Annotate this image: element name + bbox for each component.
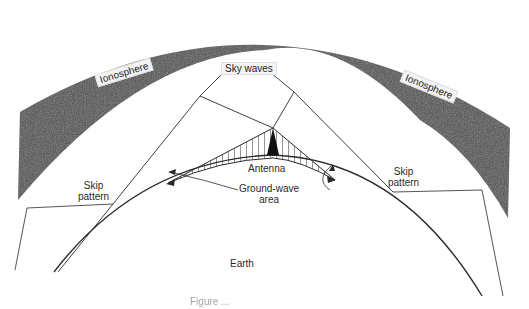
skip-right-line2: pattern (388, 177, 419, 188)
skip-left-line1: Skip (78, 180, 109, 191)
ground-wave-label-line2: area (239, 194, 299, 205)
skip-left-line2: pattern (78, 191, 109, 202)
figure-caption: Figure ... (190, 296, 229, 307)
skip-right-line1: Skip (388, 166, 419, 177)
diagram-canvas (0, 0, 529, 309)
sky-waves-label: Sky waves (221, 62, 277, 75)
skip-pattern-label-right: Skip pattern (388, 166, 419, 188)
ground-wave-label-line1: Ground-wave (239, 183, 299, 194)
arrowhead-ground-left-icon (166, 179, 175, 186)
antenna-label: Antenna (248, 163, 285, 174)
arrowhead-left-icon (168, 169, 176, 175)
skip-pattern-label-left: Skip pattern (78, 180, 109, 202)
ground-wave-hatched-area (168, 128, 335, 183)
ground-wave-label: Ground-wave area (239, 183, 299, 205)
skip-leader-lines (15, 190, 503, 296)
earth-label: Earth (230, 258, 254, 269)
